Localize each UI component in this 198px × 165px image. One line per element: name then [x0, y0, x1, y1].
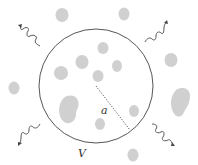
- particle: [128, 149, 139, 162]
- particle: [98, 42, 109, 54]
- particle: [9, 82, 20, 95]
- arrowhead-icon: [18, 24, 22, 28]
- volume-label: V: [78, 147, 87, 160]
- particle: [56, 8, 69, 22]
- particle: [112, 60, 122, 72]
- particle: [93, 70, 104, 82]
- arrowhead-icon: [18, 142, 22, 146]
- particle: [165, 53, 178, 67]
- radiation-arrow-bottom-left: [18, 124, 40, 146]
- wavy-line-icon: [20, 124, 40, 143]
- wavy-line-icon: [145, 23, 166, 42]
- wavy-line-icon: [21, 26, 40, 46]
- arrowhead-icon: [164, 20, 168, 24]
- sphere-volume-diagram: a V: [0, 0, 198, 165]
- particle: [76, 55, 89, 69]
- radiation-arrow-bottom-right: [152, 124, 175, 146]
- particle: [59, 96, 78, 124]
- particle: [171, 88, 190, 117]
- wavy-line-icon: [152, 124, 172, 143]
- radiation-arrow-top-left: [18, 24, 40, 46]
- particle: [54, 66, 68, 80]
- radius-label: a: [101, 104, 108, 117]
- particle: [129, 105, 139, 117]
- particle: [119, 8, 130, 21]
- radiation-arrow-top-right: [145, 20, 168, 42]
- particle: [95, 118, 105, 130]
